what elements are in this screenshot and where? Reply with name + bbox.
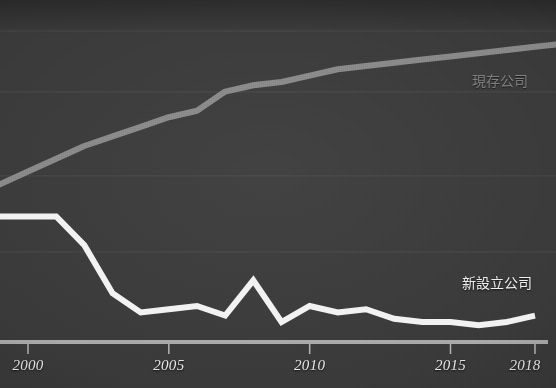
x-tick-label-2018: 2018 <box>509 357 540 374</box>
gridlines <box>0 31 556 252</box>
series-line-new <box>0 216 535 325</box>
chart-canvas: 20002005201020152018 現存公司 新設立公司 <box>0 0 556 388</box>
x-tick-label-2005: 2005 <box>153 357 184 374</box>
x-axis <box>0 342 548 354</box>
line-chart-svg <box>0 0 556 388</box>
legend-label-new: 新設立公司 <box>462 272 532 292</box>
x-tick-label-2000: 2000 <box>12 357 43 374</box>
x-tick-label-2015: 2015 <box>435 357 466 374</box>
legend-label-existing: 現存公司 <box>472 70 528 90</box>
x-tick-label-2010: 2010 <box>294 357 325 374</box>
series-line-existing <box>0 44 556 184</box>
x-axis-ticks <box>28 344 535 354</box>
